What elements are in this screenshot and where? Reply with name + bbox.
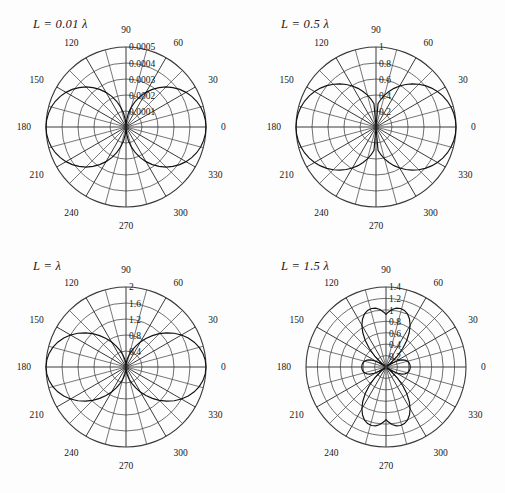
angle-tick-label: 120 xyxy=(314,38,329,48)
polar-pattern-figure: L = 0.01 λ030609012015018021024027030033… xyxy=(0,0,505,493)
radial-tick-label: 1 xyxy=(379,42,384,52)
angle-tick-label: 90 xyxy=(371,25,381,35)
grid-spoke xyxy=(49,106,126,127)
angle-tick-label: 0 xyxy=(471,122,476,132)
angle-tick-label: 0 xyxy=(221,122,226,132)
angle-tick-label: 180 xyxy=(17,362,32,372)
polar-plot-panel-2: L = 0.5 λ0306090120150180210240270300330… xyxy=(253,0,505,246)
grid-spoke xyxy=(86,298,126,367)
radial-tick-label: 1.6 xyxy=(129,299,141,309)
radial-tick-label: 0.6 xyxy=(379,75,391,85)
grid-spoke xyxy=(126,367,203,388)
grid-spoke xyxy=(49,346,126,367)
angle-tick-label: 300 xyxy=(174,208,189,218)
angle-tick-label: 120 xyxy=(64,278,79,288)
angle-tick-label: 150 xyxy=(289,315,304,325)
grid-spoke xyxy=(336,127,376,196)
radial-tick-label: 0.0005 xyxy=(129,42,155,52)
polar-axes: 03060901201501802102402703003300.20.40.6… xyxy=(253,247,505,493)
angle-tick-label: 60 xyxy=(174,278,184,288)
radial-tick-label: 0.8 xyxy=(389,317,401,327)
grid-spoke xyxy=(105,127,126,204)
angle-tick-label: 60 xyxy=(434,278,444,288)
grid-spoke xyxy=(376,127,453,148)
radial-tick-label: 0.2 xyxy=(379,107,391,117)
angle-tick-label: 180 xyxy=(277,362,292,372)
angle-tick-label: 120 xyxy=(64,38,79,48)
angle-tick-label: 300 xyxy=(174,448,189,458)
angle-tick-label: 330 xyxy=(208,170,223,180)
grid-spoke xyxy=(126,127,195,167)
polar-axes: 03060901201501802102402703003300.40.81.2… xyxy=(0,247,252,493)
angle-tick-label: 30 xyxy=(468,315,478,325)
radial-tick-label: 2 xyxy=(129,282,134,292)
radial-tick-label: 1.4 xyxy=(389,282,401,292)
grid-spoke xyxy=(365,367,386,444)
angle-tick-label: 30 xyxy=(458,75,468,85)
angle-tick-label: 330 xyxy=(468,410,483,420)
radial-tick-label: 0.8 xyxy=(129,331,141,341)
radial-tick-label: 0.6 xyxy=(389,329,401,339)
angle-tick-label: 30 xyxy=(208,315,218,325)
angle-tick-label: 120 xyxy=(324,278,339,288)
radial-tick-label: 0.4 xyxy=(379,91,391,101)
angle-tick-label: 60 xyxy=(424,38,434,48)
angle-tick-label: 0 xyxy=(221,362,226,372)
grid-spoke xyxy=(309,367,386,388)
angle-tick-label: 330 xyxy=(208,410,223,420)
radial-tick-label: 0.0004 xyxy=(129,59,155,69)
angle-tick-label: 240 xyxy=(314,208,329,218)
radial-tick-label: 0.8 xyxy=(379,59,391,69)
angle-tick-label: 150 xyxy=(29,315,44,325)
radial-tick-label: 1 xyxy=(389,306,394,316)
angle-tick-label: 270 xyxy=(119,461,134,471)
polar-plot-panel-1: L = 0.01 λ030609012015018021024027030033… xyxy=(0,0,252,246)
grid-spoke xyxy=(376,127,416,196)
angle-tick-label: 210 xyxy=(279,170,294,180)
radial-tick-label: 1.2 xyxy=(389,294,401,304)
polar-axes: 03060901201501802102402703003300.20.40.6… xyxy=(253,0,505,246)
angle-tick-label: 240 xyxy=(64,448,79,458)
angle-tick-label: 270 xyxy=(119,221,134,231)
angle-tick-label: 30 xyxy=(208,75,218,85)
grid-spoke xyxy=(336,58,376,127)
angle-tick-label: 330 xyxy=(458,170,473,180)
grid-spoke xyxy=(126,127,203,148)
grid-spoke xyxy=(309,346,386,367)
grid-spoke xyxy=(49,127,126,148)
angle-tick-label: 180 xyxy=(267,122,282,132)
grid-spoke xyxy=(299,106,376,127)
angle-tick-label: 270 xyxy=(369,221,384,231)
radial-tick-label: 0.4 xyxy=(389,340,401,350)
angle-tick-label: 210 xyxy=(289,410,304,420)
grid-spoke xyxy=(126,367,166,436)
polar-axes: 03060901201501802102402703003300.00010.0… xyxy=(0,0,252,246)
radial-tick-label: 1.2 xyxy=(129,315,141,325)
grid-spoke xyxy=(49,367,126,388)
angle-tick-label: 90 xyxy=(121,265,131,275)
angle-tick-label: 150 xyxy=(29,75,44,85)
grid-spoke xyxy=(86,367,126,436)
angle-tick-label: 150 xyxy=(279,75,294,85)
radial-tick-label: 0.2 xyxy=(389,352,401,362)
angle-tick-label: 0 xyxy=(481,362,486,372)
grid-spoke xyxy=(386,367,407,444)
angle-tick-label: 90 xyxy=(381,265,391,275)
polar-plot-panel-4: L = 1.5 λ0306090120150180210240270300330… xyxy=(253,247,505,493)
grid-spoke xyxy=(57,87,126,127)
angle-tick-label: 180 xyxy=(17,122,32,132)
radial-tick-label: 0.0001 xyxy=(129,107,155,117)
angle-tick-label: 60 xyxy=(174,38,184,48)
grid-spoke xyxy=(365,290,386,367)
angle-tick-label: 240 xyxy=(64,208,79,218)
angle-tick-label: 270 xyxy=(379,461,394,471)
angle-tick-label: 300 xyxy=(434,448,449,458)
grid-spoke xyxy=(386,367,463,388)
polar-plot-panel-3: L = λ03060901201501802102402703003300.40… xyxy=(0,247,252,493)
grid-spoke xyxy=(57,127,126,167)
radial-tick-label: 0.4 xyxy=(129,347,141,357)
angle-tick-label: 210 xyxy=(29,170,44,180)
grid-spoke xyxy=(126,127,147,204)
angle-tick-label: 210 xyxy=(29,410,44,420)
angle-tick-label: 300 xyxy=(424,208,439,218)
